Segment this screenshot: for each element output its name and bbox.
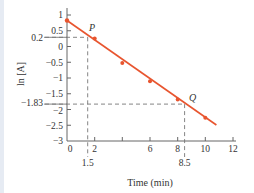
y-tick-label: −3	[53, 136, 63, 146]
point-q-label: Q	[189, 92, 197, 103]
p-x-value-label: 1.5	[82, 158, 94, 168]
x-ticks	[95, 137, 233, 141]
y-tick-label: −2	[53, 106, 63, 116]
y-tick-label: −1	[53, 73, 63, 83]
x-tick-label: 10	[201, 144, 211, 154]
y-axis-title: ln [A]	[15, 62, 26, 86]
point-p-label: P	[88, 22, 95, 33]
x-tick-label: 0	[68, 144, 73, 154]
y-tick-label: −2.5	[46, 121, 63, 131]
q-x-value-label: 8.5	[179, 158, 191, 168]
y-tick-label: 1	[58, 10, 63, 20]
y-tick-label: −1.5	[46, 89, 63, 99]
q-y-value-label: −1.83	[21, 98, 43, 108]
guide-lines	[45, 37, 185, 157]
chart: 1 0.5 0 −0.5 −1 −1.5 −2 −2.5 −3 0.2 −1.8…	[0, 0, 254, 193]
x-tick-label: 2	[92, 144, 97, 154]
data-line	[67, 21, 216, 126]
x-tick-label: 12	[228, 144, 238, 154]
p-y-value-label: 0.2	[31, 33, 43, 43]
y-tick-label: 0	[58, 42, 63, 52]
y-tick-label: 0.5	[51, 26, 63, 36]
x-tick-label: 8	[175, 144, 180, 154]
x-tick-label: 6	[148, 144, 153, 154]
y-tick-label: −0.5	[46, 58, 63, 68]
x-axis-title: Time (min)	[127, 177, 172, 189]
y-ticks	[67, 15, 71, 125]
